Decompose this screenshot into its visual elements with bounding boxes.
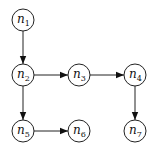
nodes: n1n2n3n4n5n6n7	[12, 9, 146, 142]
node-n3: n3	[68, 64, 90, 86]
node-n5: n5	[12, 120, 34, 142]
node-n6: n6	[68, 120, 90, 142]
graph-diagram: n1n2n3n4n5n6n7	[0, 0, 155, 155]
node-n7: n7	[124, 120, 146, 142]
node-n1: n1	[12, 9, 34, 31]
node-n2: n2	[12, 64, 34, 86]
node-n4: n4	[124, 64, 146, 86]
